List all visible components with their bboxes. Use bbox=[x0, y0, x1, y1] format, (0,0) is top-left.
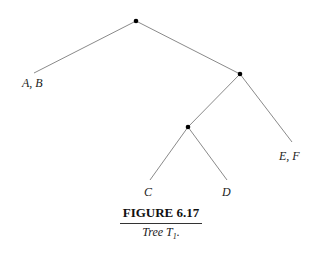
leaf-label-d: D bbox=[222, 185, 231, 200]
figure-caption: Tree T1. bbox=[120, 225, 202, 241]
figure-title: FIGURE 6.17 bbox=[120, 205, 202, 224]
right-node bbox=[238, 72, 243, 77]
leaf-label-c: C bbox=[144, 185, 152, 200]
edge-mid-c bbox=[150, 127, 188, 180]
edge-root-ab bbox=[34, 21, 136, 73]
edge-right-mid bbox=[188, 74, 240, 127]
edge-root-right bbox=[136, 21, 240, 74]
edge-mid-d bbox=[188, 127, 227, 180]
root-node bbox=[134, 19, 139, 24]
leaf-label-ef: E, F bbox=[279, 149, 300, 164]
mid-node bbox=[186, 125, 191, 130]
caption-text: Tree T bbox=[142, 225, 173, 239]
leaf-label-ab: A, B bbox=[22, 76, 43, 91]
caption-period: . bbox=[177, 225, 180, 239]
edge-right-ef bbox=[240, 74, 292, 142]
